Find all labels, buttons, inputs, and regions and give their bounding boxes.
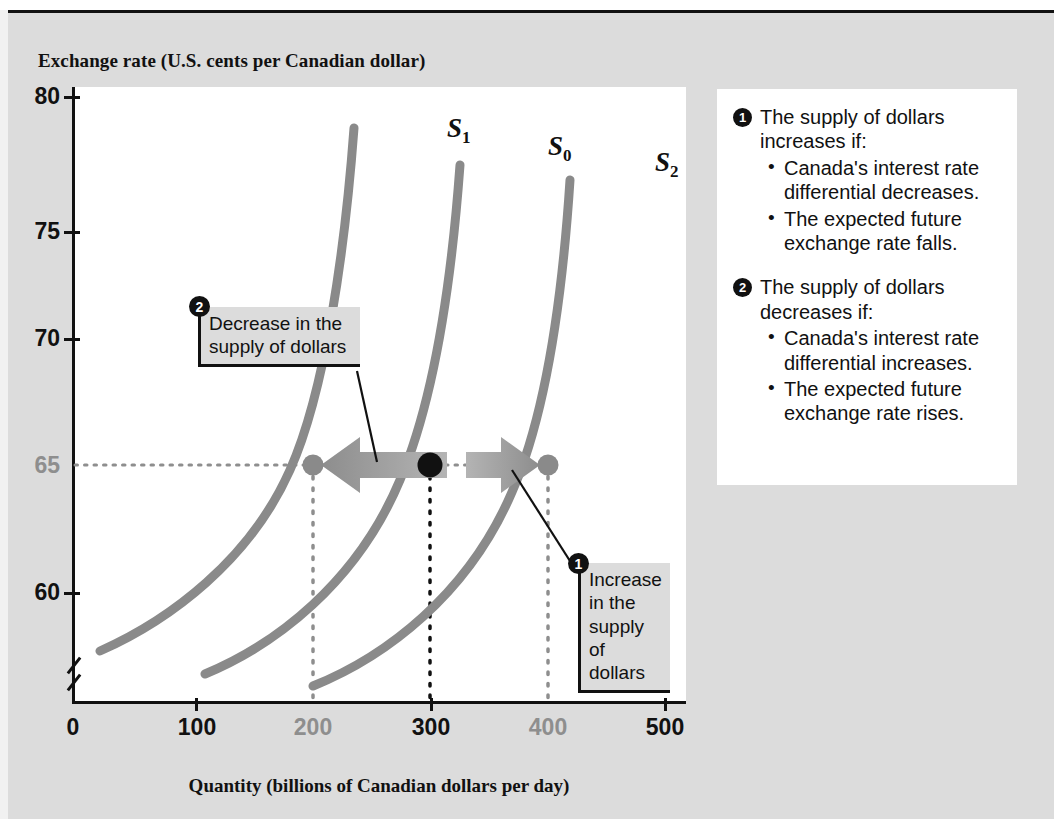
x-tick-100 — [195, 698, 198, 711]
legend-item-2-badge: 2 — [733, 278, 752, 297]
figure-page: Exchange rate (U.S. cents per Canadian d… — [0, 0, 1054, 819]
y-tick-60 — [64, 592, 80, 595]
y-tick-label-75: 75 — [16, 218, 60, 245]
y-axis-line — [72, 87, 75, 704]
y-tick-80 — [64, 96, 80, 99]
legend-item-1-head-line1: The supply of dollars — [760, 106, 945, 128]
legend-item-1: 1 The supply of dollars increases if: Ca… — [717, 89, 1017, 255]
x-tick-label-0: 0 — [28, 714, 118, 741]
legend-item-1-badge: 1 — [733, 108, 752, 127]
callout-increase-badge: 1 — [568, 553, 589, 574]
callout-decrease-supply: Decrease in the supply of dollars — [198, 307, 360, 367]
legend-item-2-head-line2: decreases if: — [760, 301, 873, 323]
curve-label-s2: S2 — [655, 147, 679, 182]
list-item: The expected future exchange rate falls. — [784, 207, 1003, 256]
x-tick-label-500: 500 — [620, 714, 710, 741]
callout-decrease-line1: Decrease in the — [209, 312, 351, 335]
x-tick-label-400: 400 — [503, 714, 593, 741]
y-tick-75 — [64, 231, 80, 234]
legend-item-2: 2 The supply of dollars decreases if: Ca… — [717, 257, 1017, 425]
page-top-margin — [0, 0, 1054, 10]
legend-item-1-heading: 1 The supply of dollars increases if: — [733, 105, 1003, 154]
list-item: Canada's interest rate differential incr… — [784, 326, 1003, 375]
legend-card: 1 The supply of dollars increases if: Ca… — [717, 89, 1017, 485]
y-axis-label: Exchange rate (U.S. cents per Canadian d… — [38, 50, 425, 72]
y-tick-70 — [64, 338, 80, 341]
x-tick-500 — [664, 698, 667, 711]
y-tick-label-65: 65 — [16, 452, 60, 479]
legend-item-1-head-line2: increases if: — [760, 130, 867, 152]
legend-item-1-bullets: Canada's interest rate differential decr… — [767, 156, 1003, 256]
legend-item-2-heading: 2 The supply of dollars decreases if: — [733, 275, 1003, 324]
callout-increase-line2: in the — [589, 591, 661, 614]
callout-increase-line1: Increase — [589, 568, 661, 591]
legend-item-1-heading-text: The supply of dollars increases if: — [760, 105, 945, 154]
list-item: Canada's interest rate differential decr… — [784, 156, 1003, 205]
x-axis-line — [72, 701, 686, 704]
list-item: The expected future exchange rate rises. — [784, 377, 1003, 426]
x-axis-label: Quantity (billions of Canadian dollars p… — [72, 775, 686, 797]
legend-item-2-head-line1: The supply of dollars — [760, 276, 945, 298]
callout-decrease-badge: 2 — [189, 296, 210, 317]
y-tick-label-70: 70 — [16, 325, 60, 352]
y-tick-label-80: 80 — [16, 83, 60, 110]
callout-increase-line4: dollars — [589, 661, 661, 684]
callout-increase-supply: Increase in the supply of dollars — [578, 563, 670, 693]
y-tick-label-60: 60 — [16, 579, 60, 606]
curve-label-s0: S0 — [548, 131, 572, 166]
curve-label-s1: S1 — [447, 113, 471, 148]
callout-decrease-line2: supply of dollars — [209, 335, 351, 358]
x-tick-300 — [430, 698, 433, 711]
x-tick-label-300: 300 — [386, 714, 476, 741]
x-tick-label-200: 200 — [268, 714, 358, 741]
callout-increase-line3: supply of — [589, 615, 661, 662]
legend-item-2-heading-text: The supply of dollars decreases if: — [760, 275, 945, 324]
x-tick-label-100: 100 — [152, 714, 242, 741]
legend-item-2-bullets: Canada's interest rate differential incr… — [767, 326, 1003, 426]
